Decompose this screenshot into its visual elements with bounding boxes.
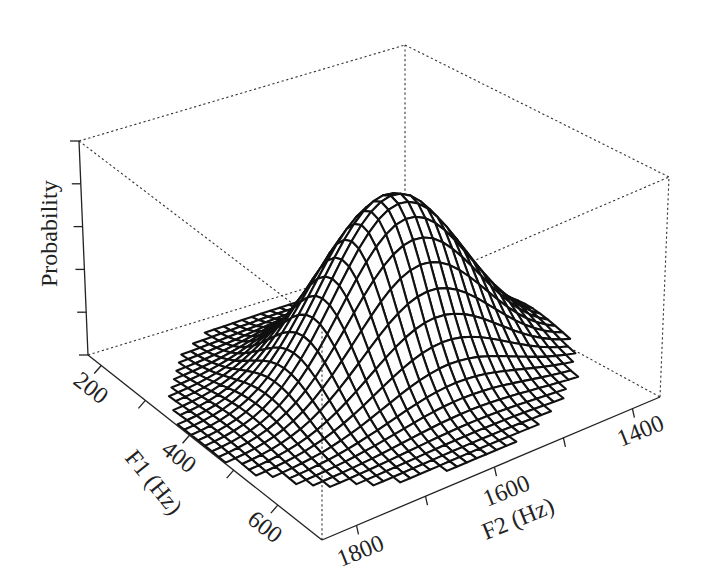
x-tick — [271, 505, 278, 513]
y-tick — [632, 409, 634, 418]
x-tick-label-600: 600 — [243, 505, 287, 548]
probability-surface-mesh — [169, 193, 578, 487]
x-tick — [94, 365, 101, 373]
x-tick-label-400: 400 — [157, 435, 201, 478]
y-tick-label-1400: 1400 — [613, 410, 667, 452]
y-tick-label-1800: 1800 — [333, 530, 387, 572]
z-axis-line — [79, 141, 88, 355]
surface-plot: Probability 200 400 600 F1 (Hz) 1800 160… — [0, 0, 703, 588]
x-tick — [183, 435, 190, 443]
box-edge — [405, 45, 669, 177]
x-tick — [227, 470, 234, 478]
box-edge — [79, 141, 322, 326]
y-tick — [494, 467, 496, 476]
y-tick — [425, 496, 427, 505]
box-edge — [79, 45, 405, 141]
x-tick — [138, 400, 145, 408]
box-edge — [660, 177, 669, 397]
y-tick — [563, 438, 565, 447]
x-tick-label-200: 200 — [69, 366, 113, 409]
y-tick — [356, 525, 358, 534]
z-axis-label: Probability — [36, 180, 62, 287]
